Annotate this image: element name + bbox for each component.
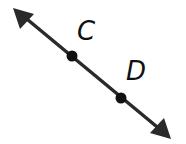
point-c [67,51,78,62]
label-c: C [77,18,95,44]
arrowhead-end-icon [150,118,171,139]
arrowhead-start-icon [13,8,34,29]
diagram-canvas: C D [0,0,186,144]
label-d: D [126,58,146,84]
point-d [116,93,127,104]
